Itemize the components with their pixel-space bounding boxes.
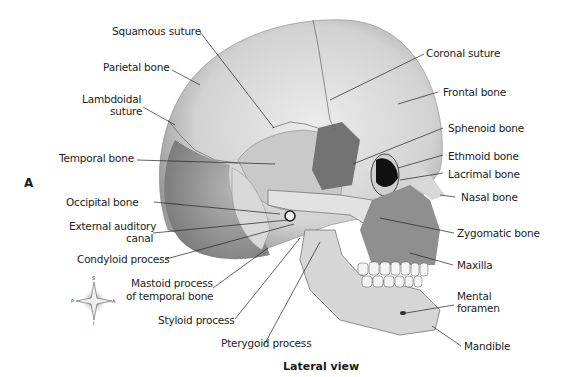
- label-styloid-process: Styloid process: [158, 314, 235, 326]
- label-pterygoid-process: Pterygoid process: [221, 337, 311, 349]
- label-nasal-bone: Nasal bone: [461, 191, 518, 203]
- compass-anterior: A: [112, 298, 115, 304]
- panel-letter: A: [24, 176, 33, 190]
- label-mastoid-2: of temporal bone: [126, 290, 213, 302]
- label-mental-foramen-1: Mental: [457, 290, 491, 302]
- label-maxilla: Maxilla: [457, 259, 493, 271]
- label-occipital-bone: Occipital bone: [66, 196, 139, 208]
- label-mental-foramen-2: foramen: [457, 302, 500, 314]
- label-parietal-bone: Parietal bone: [103, 61, 169, 73]
- label-sphenoid-bone: Sphenoid bone: [448, 122, 524, 134]
- orientation-compass: [76, 282, 112, 320]
- label-external-auditory-1: External auditory: [69, 220, 156, 232]
- compass-posterior: P: [71, 298, 74, 304]
- label-lambdoidal-suture-2: suture: [110, 105, 142, 117]
- label-squamous-suture: Squamous suture: [112, 25, 201, 37]
- label-lambdoidal-suture-1: Lambdoidal: [82, 93, 141, 105]
- compass-inferior: I: [93, 320, 94, 326]
- label-mastoid-1: Mastoid process: [131, 277, 213, 289]
- label-condyloid-process: Condyloid process: [77, 253, 170, 265]
- label-lacrimal-bone: Lacrimal bone: [448, 168, 520, 180]
- teeth: [358, 262, 428, 287]
- label-zygomatic-bone: Zygomatic bone: [457, 227, 540, 239]
- label-ethmoid-bone: Ethmoid bone: [448, 150, 519, 162]
- label-temporal-bone: Temporal bone: [59, 152, 134, 164]
- label-mandible: Mandible: [464, 340, 510, 352]
- external-auditory-canal: [285, 211, 295, 221]
- compass-superior: S: [92, 275, 95, 281]
- label-coronal-suture: Coronal suture: [426, 47, 500, 59]
- label-external-auditory-2: canal: [126, 232, 153, 244]
- label-frontal-bone: Frontal bone: [443, 86, 506, 98]
- figure-caption: Lateral view: [283, 360, 359, 373]
